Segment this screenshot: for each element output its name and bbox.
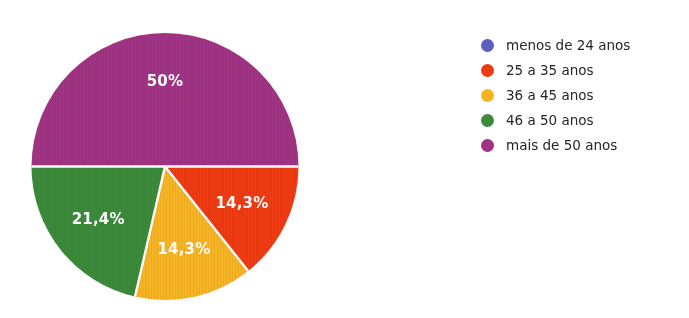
- chart-legend: menos de 24 anos 25 a 35 anos 36 a 45 an…: [481, 33, 681, 158]
- legend-label-25-a-35-anos: 25 a 35 anos: [506, 64, 594, 78]
- legend-item-46-a-50-anos[interactable]: 46 a 50 anos: [481, 108, 681, 133]
- legend-swatch-icon-36-a-45-anos: [481, 89, 494, 102]
- pie-svg: 50% 14,3% 14,3% 21,4%: [31, 32, 299, 302]
- pie-label-46-a-50-anos: 21,4%: [72, 210, 125, 228]
- legend-swatch-icon-menos-de-24-anos: [481, 39, 494, 52]
- legend-label-menos-de-24-anos: menos de 24 anos: [506, 39, 630, 53]
- legend-item-menos-de-24-anos[interactable]: menos de 24 anos: [481, 33, 681, 58]
- legend-label-46-a-50-anos: 46 a 50 anos: [506, 114, 594, 128]
- legend-item-mais-de-50-anos[interactable]: mais de 50 anos: [481, 133, 681, 158]
- legend-item-36-a-45-anos[interactable]: 36 a 45 anos: [481, 83, 681, 108]
- pie-label-25-a-35-anos: 14,3%: [215, 194, 268, 212]
- pie-label-36-a-45-anos: 14,3%: [157, 240, 210, 258]
- pie-chart-graphic: 50% 14,3% 14,3% 21,4%: [31, 32, 299, 302]
- legend-swatch-icon-25-a-35-anos: [481, 64, 494, 77]
- legend-swatch-icon-mais-de-50-anos: [481, 139, 494, 152]
- pie-slice-mais-de-50-anos: [32, 33, 299, 167]
- pie-label-mais-de-50-anos: 50%: [147, 72, 184, 90]
- legend-label-36-a-45-anos: 36 a 45 anos: [506, 89, 594, 103]
- legend-label-mais-de-50-anos: mais de 50 anos: [506, 139, 617, 153]
- legend-swatch-icon-46-a-50-anos: [481, 114, 494, 127]
- pie-chart-figure: 50% 14,3% 14,3% 21,4% menos de 24 anos 2…: [0, 0, 689, 318]
- legend-item-25-a-35-anos[interactable]: 25 a 35 anos: [481, 58, 681, 83]
